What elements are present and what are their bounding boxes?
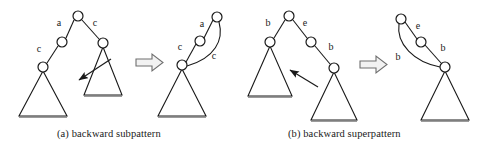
panel-b-before-edge-label-e: e <box>303 17 308 28</box>
panel-b-before-node-right-child <box>306 37 316 47</box>
panel-a-before-edge-root-left <box>66 20 74 38</box>
panel-a-after-edge-mid-bottom <box>186 44 196 62</box>
panel-a-after-backward-edge-label: c <box>212 50 217 61</box>
panel-a-implies-arrow <box>136 54 163 71</box>
panel-b-after-edge-mid-bottom <box>425 45 441 63</box>
panel-a-after-node-mid <box>195 36 205 46</box>
panel-b-after-edge-label-b: b <box>441 42 446 53</box>
panel-b-before-edge-label-b1: b <box>266 17 271 28</box>
panel-a-before-node-root <box>73 11 83 21</box>
panel-b-after: e b b <box>396 14 470 121</box>
panel-a-after-edge-root-mid <box>204 20 213 38</box>
panel-a-before-left-subtree-triangle <box>19 71 67 117</box>
panel-a-before-edge-left-grand <box>47 46 58 63</box>
panel-b-before-edge-root-left <box>274 20 285 38</box>
panel-b-before-node-left-child <box>265 37 275 47</box>
panel-a-after: a c c <box>158 12 222 117</box>
panel-a-before-edge-label-a: a <box>57 17 62 28</box>
panel-a-after-edge-label-c: c <box>178 41 183 52</box>
panel-a-after-subtree-triangle <box>158 69 206 117</box>
panel-a-before-node-left-child <box>57 37 67 47</box>
panel-a-before-edge-label-c2: c <box>37 43 42 54</box>
panel-b-match-pointer-arrow <box>290 70 318 87</box>
panel-b-before-left-subtree-triangle <box>248 46 292 97</box>
panel-b-after-edge-label-e: e <box>416 20 421 31</box>
panel-b-before-right-subtree-triangle <box>311 72 357 121</box>
panel-a-after-edge-label-a: a <box>200 18 205 29</box>
panel-b-before-edge-label-b2: b <box>329 41 334 52</box>
panel-a-before: a c c <box>19 11 122 117</box>
panel-a-caption: (a) backward subpattern <box>57 128 161 139</box>
panel-a-after-node-root <box>212 12 222 22</box>
panel-a-after-node-bottom <box>177 60 187 70</box>
panel-a-before-node-right-child <box>98 38 108 48</box>
figure-container: a c c a c c <box>0 0 489 157</box>
panel-a-before-edge-label-c1: c <box>93 17 98 28</box>
panel-b-caption: (b) backward superpattern <box>288 128 401 139</box>
panel-b-before: b e b <box>248 11 357 121</box>
panel-b-after-backward-edge-label: b <box>396 51 401 62</box>
panel-b-implies-arrow <box>360 56 387 73</box>
panel-b-after-node-root <box>396 14 406 24</box>
panel-b-before-node-right-grandchild <box>329 63 339 73</box>
panel-b-before-node-root <box>284 11 294 21</box>
panel-b-after-node-bottom <box>440 62 450 72</box>
panel-a-before-node-left-grandchild <box>38 62 48 72</box>
panel-a-before-right-subtree-triangle <box>84 47 122 96</box>
panel-b-after-node-mid <box>416 37 426 47</box>
panel-b-after-subtree-triangle <box>421 71 469 121</box>
